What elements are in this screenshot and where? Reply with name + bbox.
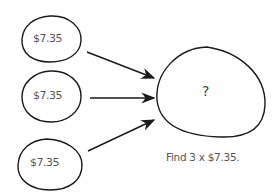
- input-label-2: $7.35: [33, 89, 62, 102]
- input-label-1: $7.35: [33, 32, 62, 45]
- result-oval: [157, 47, 265, 137]
- result-question-mark: ?: [202, 83, 209, 99]
- input-label-3: $7.35: [30, 156, 59, 169]
- diagram-canvas: $7.35 $7.35 $7.35 ? Find 3 x $7.35.: [0, 0, 279, 193]
- arrow-3: [88, 120, 154, 151]
- caption: Find 3 x $7.35.: [166, 151, 239, 163]
- arrow-1: [87, 52, 154, 78]
